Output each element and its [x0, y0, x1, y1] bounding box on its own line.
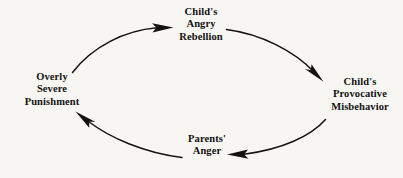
- node-line: Punishment: [8, 96, 96, 108]
- node-line: Provocative: [316, 88, 403, 100]
- node-line: Misbehavior: [316, 101, 403, 113]
- cycle-diagram: Child's Angry Rebellion Child's Provocat…: [0, 0, 403, 178]
- node-line: Severe: [8, 83, 96, 95]
- node-label-misbehavior: Child's Provocative Misbehavior: [316, 76, 403, 113]
- node-line: Overly: [8, 71, 96, 83]
- node-line: Child's: [316, 76, 403, 88]
- node-line: Parents': [166, 133, 248, 145]
- node-label-punishment: Overly Severe Punishment: [8, 71, 96, 108]
- node-line: Child's: [156, 6, 246, 18]
- node-label-rebellion: Child's Angry Rebellion: [156, 6, 246, 43]
- node-line: Rebellion: [156, 31, 246, 43]
- node-line: Anger: [166, 145, 248, 157]
- node-line: Angry: [156, 18, 246, 30]
- node-label-parents-anger: Parents' Anger: [166, 133, 248, 158]
